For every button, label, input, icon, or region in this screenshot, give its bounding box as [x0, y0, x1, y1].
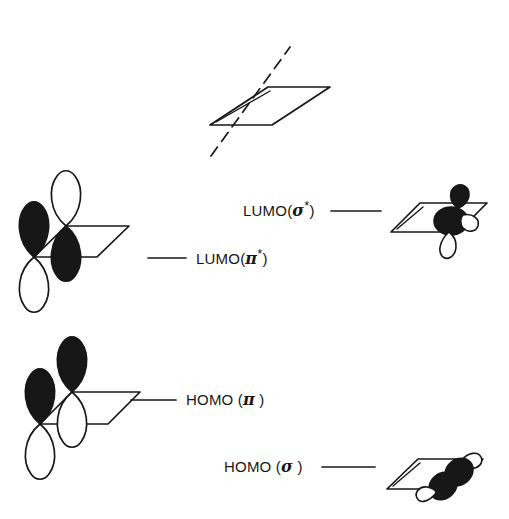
lobe-filled-large-upper	[439, 453, 478, 491]
double-bond-line	[397, 207, 423, 229]
lobe-filled-small-upper	[451, 185, 469, 208]
label-homo-sigma-symbol: σ	[281, 457, 293, 476]
orbital-front-left	[19, 202, 48, 313]
lobe-filled-upper	[25, 369, 54, 424]
double-bond-line	[216, 91, 270, 122]
label-homo-sigma: HOMO (σ )	[224, 459, 303, 475]
label-lumo-pi-prefix: LUMO(	[196, 250, 245, 267]
orbital-back-left	[57, 337, 86, 448]
label-homo-sigma-suffix: )	[293, 458, 303, 475]
label-lumo-pi-suffix: )	[263, 250, 268, 267]
orbital-front-left	[25, 369, 54, 480]
label-homo-pi-symbol: π	[243, 390, 255, 409]
lobe-filled-large-middle	[434, 207, 468, 235]
orbital-diagram-figure: LUMO(π*) LUMO(σ*) HOMO (π ) HOMO (σ )	[0, 0, 509, 519]
label-lumo-pi-star: LUMO(π*)	[196, 251, 268, 267]
panel-homo-pi	[25, 337, 176, 480]
label-lumo-sigma-star: LUMO(σ*)	[243, 203, 315, 219]
label-homo-sigma-prefix: HOMO (	[224, 458, 281, 475]
lobe-filled-upper	[19, 202, 48, 257]
label-homo-pi: HOMO (π )	[186, 392, 265, 408]
plane-parallelogram	[391, 203, 487, 232]
orbital-right-edge	[416, 453, 482, 505]
label-lumo-sigma-symbol: σ	[292, 201, 304, 220]
plane-parallelogram	[34, 226, 129, 257]
dashed-symmetry-axis	[211, 47, 290, 156]
label-homo-pi-suffix: )	[255, 391, 265, 408]
orbital-right-edge	[434, 185, 478, 258]
lobe-empty-small-lower	[416, 487, 436, 502]
lobe-empty-lower	[25, 424, 54, 479]
panel-homo-sigma	[322, 453, 483, 505]
panel-lumo-sigma-star	[331, 185, 487, 258]
plane-parallelogram	[210, 87, 330, 125]
lobe-empty-lower	[440, 232, 456, 258]
lobe-empty-small-upper	[461, 453, 482, 468]
label-lumo-sigma-prefix: LUMO(	[243, 202, 292, 219]
lobe-empty-lower	[19, 257, 48, 312]
label-lumo-sigma-suffix: )	[310, 202, 315, 219]
lobe-empty-lower	[57, 392, 86, 447]
plane-parallelogram	[40, 392, 140, 424]
label-homo-pi-prefix: HOMO (	[186, 391, 243, 408]
lobe-filled-large-lower	[423, 467, 462, 505]
lobe-filled-upper	[57, 337, 86, 392]
lobe-empty-side	[461, 215, 479, 232]
double-bond-line	[393, 463, 420, 486]
lobe-filled-lower	[51, 226, 80, 281]
panel-reference-plane	[210, 47, 330, 156]
orbital-back-left	[51, 171, 80, 282]
label-lumo-pi-symbol: π	[245, 249, 257, 268]
lobe-empty-upper	[51, 171, 80, 226]
plane-parallelogram	[387, 459, 483, 489]
panel-lumo-pi-star	[19, 171, 186, 313]
